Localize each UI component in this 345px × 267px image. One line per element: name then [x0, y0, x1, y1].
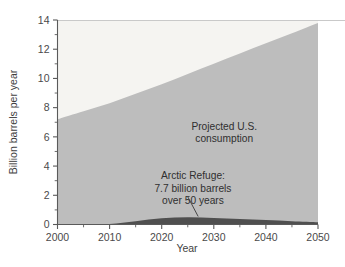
y-tick-label: 10	[38, 72, 50, 84]
x-tick-label: 2000	[46, 231, 70, 243]
x-tick-label: 2020	[150, 231, 174, 243]
y-tick-label: 14	[38, 14, 50, 26]
oil-consumption-area-chart: 02468101214 200020102020203020402050 Bil…	[0, 0, 345, 267]
x-tick-label: 2010	[98, 231, 122, 243]
x-tick-label: 2050	[306, 231, 330, 243]
y-axis-tick-labels: 02468101214	[38, 14, 50, 231]
x-tick-label: 2030	[202, 231, 226, 243]
y-tick-label: 8	[44, 101, 50, 113]
x-axis-title: Year	[176, 242, 198, 254]
annotation-line: Projected U.S.	[191, 121, 257, 132]
annotation-line: 7.7 billion barrels	[154, 183, 231, 194]
y-tick-label: 2	[44, 189, 50, 201]
consumption-annotation: Projected U.S.consumption	[191, 121, 257, 144]
annotation-line: over 50 years	[162, 195, 224, 206]
y-tick-label: 0	[44, 218, 50, 230]
x-axis-ticks	[58, 225, 319, 230]
y-axis-ticks	[53, 20, 58, 225]
annotation-line: consumption	[195, 133, 253, 144]
x-tick-label: 2040	[254, 231, 278, 243]
annotation-line: Arctic Refuge:	[161, 170, 225, 181]
y-tick-label: 4	[44, 160, 50, 172]
x-axis-tick-labels: 200020102020203020402050	[46, 231, 330, 243]
y-axis-title: Billion barrels per year	[7, 69, 19, 174]
y-tick-label: 12	[38, 43, 50, 55]
chart-container: 02468101214 200020102020203020402050 Bil…	[0, 0, 345, 267]
y-tick-label: 6	[44, 131, 50, 143]
